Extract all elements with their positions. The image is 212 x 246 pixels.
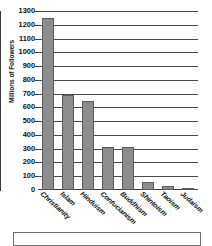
y-axis-tick-label: 500 bbox=[9, 117, 35, 124]
x-axis-category-labels: ChristianityIslamHinduismConfucianismBud… bbox=[38, 190, 212, 236]
y-axis-tick-label: 100 bbox=[9, 172, 35, 179]
y-axis-tick-label: 800 bbox=[9, 76, 35, 83]
bar bbox=[122, 147, 134, 190]
bar bbox=[42, 18, 54, 190]
y-axis-tick-labels: 1300120011001000900800700600500400300200… bbox=[9, 0, 35, 244]
bars-group bbox=[38, 11, 198, 190]
y-axis-tick-label: 400 bbox=[9, 131, 35, 138]
y-axis-tick-label: 1000 bbox=[9, 48, 35, 55]
bar bbox=[102, 147, 114, 190]
y-axis-tick-label: 1200 bbox=[9, 21, 35, 28]
bottom-frame-box bbox=[13, 232, 201, 246]
y-axis-tick-label: 900 bbox=[9, 62, 35, 69]
bar bbox=[82, 101, 94, 191]
x-axis-category-label: Islam bbox=[59, 190, 77, 207]
x-axis-category-label: Judaism bbox=[179, 190, 204, 214]
y-axis-tick-label: 1100 bbox=[9, 35, 35, 42]
bar bbox=[62, 95, 74, 190]
y-axis-tick-label: 700 bbox=[9, 90, 35, 97]
y-axis-line bbox=[0, 11, 1, 191]
y-axis-tick-label: 600 bbox=[9, 103, 35, 110]
y-axis-tick-label: 300 bbox=[9, 145, 35, 152]
y-axis-tick-label: 200 bbox=[9, 158, 35, 165]
plot-area bbox=[38, 11, 198, 190]
y-axis-tick-label: 1300 bbox=[9, 7, 35, 14]
y-axis-tick-label: 0 bbox=[9, 186, 35, 193]
